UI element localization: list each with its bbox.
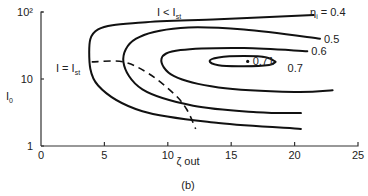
x-tick-label: 0 — [38, 149, 44, 161]
axes — [41, 12, 358, 146]
annotation-i-less-ist: I < Ist — [157, 6, 181, 20]
x-tick-label: 20 — [288, 149, 300, 161]
x-axis-label: ζ out — [176, 155, 199, 167]
x-axis-line — [41, 142, 358, 146]
peak-point — [246, 60, 249, 63]
caption: (b) — [181, 179, 194, 191]
y-ticks: 11010² — [17, 6, 44, 152]
contour-label-0.6: 0.6 — [311, 45, 326, 57]
x-tick-label: 10 — [162, 149, 174, 161]
annotation-i-equals-ist: I = Ist — [56, 62, 80, 76]
contour-label-0.7: 0.7 — [288, 62, 303, 74]
y-axis-label: I0 — [6, 90, 13, 104]
contour-label-0.5: 0.5 — [324, 33, 339, 45]
x-tick-label: 25 — [352, 149, 364, 161]
y-tick-label: 10² — [17, 6, 33, 18]
contour-chart: 0510152025 11010² 0.50.60.70.71 I0 ζ out… — [0, 0, 368, 196]
contour-curves: 0.50.60.70.71 — [89, 15, 339, 129]
contour-label-0.4: ηi = 0.4 — [310, 6, 346, 20]
peak-label: 0.71 — [253, 55, 274, 67]
x-ticks: 0510152025 — [38, 142, 364, 161]
y-tick-label: 10 — [21, 73, 33, 85]
x-tick-label: 5 — [101, 149, 107, 161]
contour-0.6 — [161, 48, 332, 92]
y-tick-label: 1 — [27, 140, 33, 152]
x-tick-label: 15 — [225, 149, 237, 161]
contour-0.4 — [89, 15, 313, 129]
